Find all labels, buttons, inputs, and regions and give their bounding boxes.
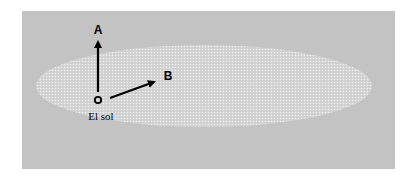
origin-label: El sol	[88, 110, 113, 122]
plane-ellipse	[36, 45, 372, 127]
vector-a-label: A	[94, 23, 103, 37]
diagram-canvas: A B El sol	[0, 0, 417, 180]
vector-b-label: B	[164, 69, 173, 83]
